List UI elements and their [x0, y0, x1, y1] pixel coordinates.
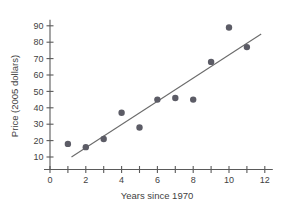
- y-tick-label: 20: [33, 136, 43, 146]
- x-tick-label: 6: [155, 175, 160, 185]
- data-point: [154, 96, 160, 102]
- data-point: [172, 95, 178, 101]
- x-tick-label: 4: [119, 175, 124, 185]
- data-point: [118, 110, 124, 116]
- trend-line: [71, 34, 261, 157]
- data-point: [136, 124, 142, 130]
- x-tick-label: 12: [260, 175, 270, 185]
- plot-area: 102030405060708090 024681012 Years since…: [0, 0, 294, 210]
- data-point: [190, 96, 196, 102]
- data-point: [65, 141, 71, 147]
- data-points: [65, 24, 250, 150]
- scatter-chart: 102030405060708090 024681012 Years since…: [0, 0, 294, 210]
- y-tick-label: 40: [33, 103, 43, 113]
- x-tick-label: 0: [47, 175, 52, 185]
- x-axis-title: Years since 1970: [121, 190, 194, 201]
- data-point: [101, 136, 107, 142]
- y-tick-label: 70: [33, 54, 43, 64]
- x-axis: 024681012: [44, 166, 273, 185]
- x-tick-label: 2: [83, 175, 88, 185]
- y-tick-label: 30: [33, 119, 43, 129]
- y-tick-label: 60: [33, 70, 43, 80]
- data-point: [83, 144, 89, 150]
- y-tick-label: 80: [33, 37, 43, 47]
- y-axis-title: Price (2005 dollars): [9, 55, 20, 137]
- data-point: [208, 59, 214, 65]
- y-tick-label: 10: [33, 152, 43, 162]
- y-tick-label: 50: [33, 87, 43, 97]
- x-tick-label: 10: [224, 175, 234, 185]
- data-point: [226, 24, 232, 30]
- data-point: [244, 44, 250, 50]
- y-tick-label: 90: [33, 21, 43, 31]
- x-tick-label: 8: [191, 175, 196, 185]
- y-axis: 102030405060708090: [33, 20, 53, 170]
